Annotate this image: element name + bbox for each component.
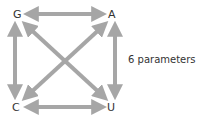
- node-u: U: [107, 102, 115, 113]
- parameters-caption: 6 parameters: [128, 54, 196, 65]
- node-g: G: [13, 9, 22, 20]
- node-c: C: [12, 102, 20, 113]
- node-a: A: [108, 9, 116, 20]
